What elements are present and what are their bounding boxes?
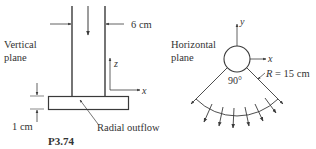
vertical-plane-label-2: plane (4, 52, 27, 63)
horizontal-plane-label-2: plane (171, 52, 194, 63)
x-axis-label-h: x (267, 53, 273, 64)
z-axis-label: z (113, 58, 118, 69)
outflow-arrow-icon (265, 98, 276, 113)
diagram-canvas: 6 cm Vertical plane z x 1 cm Radial outf… (0, 0, 316, 149)
figure-id: P3.74 (48, 135, 74, 147)
y-axis-label: y (239, 16, 245, 27)
outflow-arrow-icon (233, 108, 234, 128)
radial-outflow-arrows (204, 98, 276, 128)
disk-plate (49, 97, 129, 110)
outflow-arrow-icon (219, 107, 223, 126)
radius-label: R = 15 cm (265, 68, 310, 79)
horizontal-plane-label-1: Horizontal (171, 39, 216, 50)
angle-label: 90° (228, 75, 242, 86)
x-axis-label: x (141, 85, 147, 96)
pipe-circle (224, 46, 250, 72)
outflow-label: Radial outflow (97, 122, 160, 133)
vertical-plane-label-1: Vertical (4, 39, 37, 50)
wedge-left-edge (191, 68, 227, 104)
pipe-width-label: 6 cm (131, 19, 152, 30)
horizontal-plane-view: Horizontal plane y x 90° R = 15 cm (171, 16, 310, 128)
radius-value: = 15 cm (272, 68, 309, 79)
radius-leader-arrow (258, 73, 265, 79)
outflow-arrow-icon (245, 107, 249, 126)
vertical-plane-view: 6 cm Vertical plane z x 1 cm Radial outf… (4, 6, 160, 147)
gap-label: 1 cm (12, 121, 33, 132)
